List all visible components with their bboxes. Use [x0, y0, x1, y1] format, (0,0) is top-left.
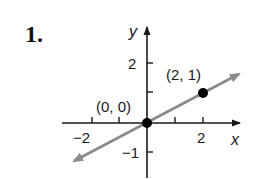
x-axis-label: x: [230, 131, 240, 148]
y-ticks: [147, 63, 153, 152]
coordinate-plane: y x 2 −1 −2 2 (0, 0) (2, 1): [0, 0, 262, 179]
point-label-2-1: (2, 1): [166, 66, 201, 83]
graph-line: [74, 74, 239, 161]
x-tick-label-2: 2: [197, 129, 205, 146]
point-origin: [142, 118, 152, 128]
y-axis-label: y: [128, 23, 138, 40]
y-tick-label-neg1: −1: [122, 144, 139, 161]
y-tick-label-2: 2: [128, 55, 136, 72]
point-2-1: [198, 88, 208, 98]
point-label-origin: (0, 0): [96, 98, 131, 115]
x-tick-label-neg2: −2: [73, 129, 90, 146]
